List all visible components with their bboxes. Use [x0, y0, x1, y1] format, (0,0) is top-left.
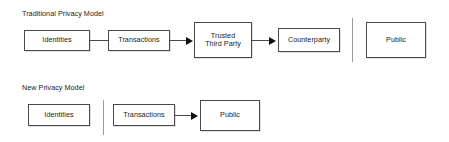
node-transactions-traditional[interactable]: Transactions: [108, 30, 170, 51]
arrowhead-icon: [269, 37, 276, 45]
node-label: Counterparty: [288, 36, 330, 45]
privacy-model-diagram: Traditional Privacy Model Identities Tra…: [0, 0, 449, 142]
divider-new: [103, 100, 104, 135]
connector-trusted-third-party-to-counterparty: [252, 40, 270, 41]
arrowhead-icon: [186, 37, 193, 45]
node-label: Trusted Third Party: [205, 32, 241, 49]
section-title-new: New Privacy Model: [22, 84, 84, 92]
node-label: Public: [220, 111, 240, 120]
node-label: Public: [386, 36, 406, 45]
node-counterparty[interactable]: Counterparty: [278, 28, 340, 52]
node-identities-traditional[interactable]: Identities: [24, 30, 90, 51]
section-title-traditional: Traditional Privacy Model: [22, 10, 104, 18]
connector-transactions-to-public: [175, 115, 192, 116]
arrowhead-icon: [191, 112, 198, 120]
node-identities-new[interactable]: Identities: [28, 104, 90, 126]
node-label: Identities: [44, 111, 73, 120]
node-public-traditional[interactable]: Public: [366, 22, 426, 58]
node-label: Transactions: [123, 111, 164, 120]
node-label: Identities: [42, 36, 71, 45]
divider-traditional: [352, 18, 353, 62]
node-trusted-third-party[interactable]: Trusted Third Party: [194, 22, 252, 58]
node-public-new[interactable]: Public: [200, 100, 260, 131]
node-transactions-new[interactable]: Transactions: [113, 104, 175, 126]
connector-transactions-to-trusted-third-party: [170, 40, 187, 41]
node-label: Transactions: [118, 36, 159, 45]
connector-identities-to-transactions: [90, 40, 108, 41]
